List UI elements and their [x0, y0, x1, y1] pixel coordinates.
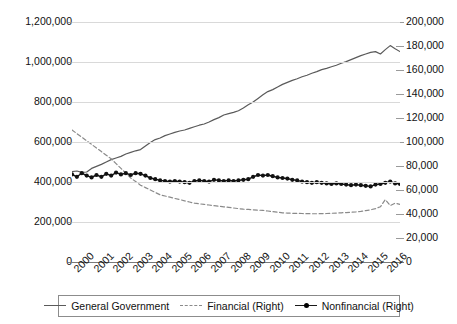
x-axis-tick: 2014	[345, 266, 353, 274]
x-axis-tick: 2008	[228, 266, 236, 274]
series-marker	[143, 174, 147, 178]
legend-swatch-icon	[295, 301, 317, 311]
series-marker	[138, 172, 142, 176]
series-marker	[359, 183, 363, 187]
right-axis-tick: 200,000	[406, 15, 444, 27]
x-axis-tick: 2005	[169, 266, 177, 274]
series-marker	[369, 184, 373, 188]
right-axis-tick: 120,000	[406, 111, 444, 123]
x-axis-tick: 2001	[91, 266, 99, 274]
series-marker	[280, 176, 284, 180]
right-axis-tick: 20,000	[406, 231, 438, 243]
legend-swatch-icon	[44, 301, 66, 311]
series-marker	[373, 183, 377, 187]
series-marker	[251, 175, 255, 179]
chart-legend: General GovernmentFinancial (Right)Nonfi…	[58, 295, 400, 317]
x-axis-tick: 2002	[110, 266, 118, 274]
series-marker	[75, 175, 79, 179]
series-marker	[285, 177, 289, 181]
series-marker	[94, 173, 98, 177]
right-axis-tick: 180,000	[406, 39, 444, 51]
gridline	[72, 182, 400, 183]
left-axis-tick: 800,000	[34, 95, 72, 107]
series-marker	[276, 175, 280, 179]
series-marker	[256, 173, 260, 177]
left-axis-tick: 600,000	[34, 135, 72, 147]
series-marker	[349, 183, 353, 187]
legend-marker-icon	[304, 303, 309, 308]
series-marker	[271, 174, 275, 178]
series-marker	[129, 173, 133, 177]
x-axis-tick: 2009	[247, 266, 255, 274]
right-axis-tick: 140,000	[406, 87, 444, 99]
series-marker	[89, 175, 93, 179]
right-axis-tick: 100,000	[406, 135, 444, 147]
x-axis-tick: 2004	[149, 266, 157, 274]
series-marker	[344, 183, 348, 187]
series-marker	[104, 172, 108, 176]
gridline	[72, 102, 400, 103]
legend-item[interactable]: General Government	[44, 300, 169, 312]
series-line-1	[72, 46, 400, 173]
x-axis-tick: 2010	[267, 266, 275, 274]
series-marker	[119, 172, 123, 176]
series-marker	[153, 177, 157, 181]
legend-label: General Government	[71, 300, 169, 312]
gridline	[72, 62, 400, 63]
x-axis-tick: 2003	[130, 266, 138, 274]
x-axis-tick: 2007	[208, 266, 216, 274]
series-marker	[99, 175, 103, 179]
left-axis-tick: 400,000	[34, 175, 72, 187]
x-axis-tick: 2011	[286, 266, 294, 274]
series-marker	[124, 171, 128, 175]
series-marker	[148, 176, 152, 180]
right-axis-tick: 160,000	[406, 63, 444, 75]
series-marker	[261, 174, 265, 178]
series-marker	[80, 171, 84, 175]
series-marker	[134, 171, 138, 175]
left-axis-tick: 200,000	[34, 215, 72, 227]
x-axis-tick: 2012	[306, 266, 314, 274]
plot-area	[72, 22, 400, 262]
right-axis-tick: 60,000	[406, 183, 438, 195]
left-axis-tick: 1,000,000	[25, 55, 72, 67]
legend-label: Nonfinancial (Right)	[322, 300, 414, 312]
series-marker	[354, 183, 358, 187]
series-marker	[364, 184, 368, 188]
series-marker	[114, 171, 118, 175]
legend-label: Financial (Right)	[207, 300, 283, 312]
x-axis-tick: 2006	[188, 266, 196, 274]
gridline	[72, 142, 400, 143]
legend-item[interactable]: Financial (Right)	[180, 300, 283, 312]
legend-item[interactable]: Nonfinancial (Right)	[295, 300, 414, 312]
right-axis-tick: 40,000	[406, 207, 438, 219]
right-axis-tick: 80,000	[406, 159, 438, 171]
x-axis-tick: 2015	[365, 266, 373, 274]
series-marker	[109, 174, 113, 178]
x-axis-tick: 2013	[326, 266, 334, 274]
series-marker	[246, 177, 250, 181]
chart-container: 0200,000400,000600,000800,0001,000,0001,…	[0, 0, 457, 324]
x-axis-tick: 2000	[71, 266, 79, 274]
series-marker	[266, 173, 270, 177]
left-axis-tick: 1,200,000	[25, 15, 72, 27]
series-marker	[85, 174, 89, 178]
legend-swatch-icon	[180, 301, 202, 311]
x-axis-tick: 2016	[384, 266, 392, 274]
gridline	[72, 222, 400, 223]
gridline	[72, 22, 400, 23]
